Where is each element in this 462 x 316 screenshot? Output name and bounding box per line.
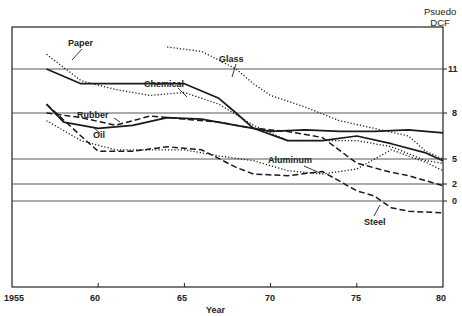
series-paper xyxy=(47,54,444,163)
leader-line xyxy=(304,166,320,173)
y-axis-title-line2: DCF xyxy=(424,17,456,28)
label-chemical: Chemical xyxy=(144,79,184,89)
x-axis-title: Year xyxy=(206,305,225,315)
label-paper: Paper xyxy=(68,38,93,48)
series-aluminum xyxy=(47,121,444,174)
y-tick-0: 0 xyxy=(452,196,457,206)
series-lines xyxy=(47,47,444,213)
y-tick-2: 2 xyxy=(452,179,457,189)
leader-line xyxy=(72,49,82,60)
series-rubber xyxy=(47,113,444,186)
y-tick-8: 8 xyxy=(452,108,457,118)
plot-frame xyxy=(12,27,447,287)
leader-line xyxy=(114,118,120,122)
label-glass: Glass xyxy=(219,54,244,64)
label-oil: Oil xyxy=(93,130,105,140)
leader-line xyxy=(374,205,380,216)
label-aluminum: Aluminum xyxy=(268,155,312,165)
y-tick-5: 5 xyxy=(452,154,457,164)
y-tick-11: 11 xyxy=(448,64,458,74)
x-tick-80: 80 xyxy=(436,293,446,303)
series-glass xyxy=(167,47,443,159)
leader-line xyxy=(232,64,236,77)
plot-border xyxy=(12,27,443,287)
x-tick-60: 60 xyxy=(90,293,100,303)
label-leader-lines xyxy=(72,49,380,216)
leader-line xyxy=(178,88,187,97)
label-steel: Steel xyxy=(364,217,386,227)
x-tick-70: 70 xyxy=(265,293,275,303)
label-rubber: Rubber xyxy=(77,110,109,120)
y-axis-title-line1: Psuedo xyxy=(424,6,456,17)
x-tick-75: 75 xyxy=(351,293,361,303)
x-tick-1955: 1955 xyxy=(4,293,24,303)
x-tick-65: 65 xyxy=(177,293,187,303)
y-axis-title: Psuedo DCF xyxy=(424,6,456,28)
